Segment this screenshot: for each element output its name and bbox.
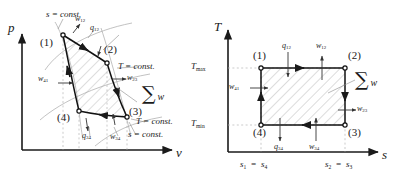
ts-tick-tmin: Tmin [191,119,205,128]
ts-label-w23: w23 [357,105,367,113]
ts-label-q34: q34 [274,143,283,151]
ts-y-axis-label: T [214,20,221,33]
ts-x-axis-label: s [382,148,387,161]
ts-tick-tmax: Tmax [191,62,206,71]
pv-s-const-bottom-label: s = const. [128,130,163,139]
ts-state-label-4: (4) [253,127,266,138]
pv-label-w34: w34 [110,133,120,141]
pv-state-label-2: (2) [104,44,117,55]
ts-label-q12: q12 [282,42,291,50]
pv-label-q12: q12 [90,24,99,32]
ts-sum-work-label: ∑w [355,70,377,89]
figure-canvas: p v (1) (2) (3) (4) s = const. s = const… [0,0,399,180]
pv-arrow-w12 [73,24,80,33]
ts-state-label-3: (3) [348,127,361,138]
ts-state-label-2: (2) [348,50,361,61]
pv-label-w23: w23 [127,74,137,82]
pv-y-axis-label: p [8,21,15,34]
ts-work-area [261,68,345,125]
ts-label-w34: w34 [309,143,319,151]
pv-label-w12: w12 [75,15,85,23]
pv-arrow-q12 [98,46,101,56]
pv-arrow-q34 [86,118,88,131]
pv-label-w41: w41 [38,75,48,83]
ts-tick-s2-s3: s2 = s3 [325,160,352,169]
pv-diagram-graphics [0,0,199,180]
pv-work-area-fill [63,35,127,117]
pv-x-axis-label: v [176,146,182,159]
ts-label-w41: w41 [229,83,239,91]
ts-label-w12: w12 [316,42,326,50]
ts-tick-s1-s4: s1 = s4 [240,160,267,169]
pv-T-const-upper-label: T = const. [118,62,155,71]
ts-state-label-1: (1) [253,50,266,61]
pv-label-q34: q34 [82,132,91,140]
pv-T-const-lower-label: T = const. [136,117,173,126]
pv-sum-work-label: ∑w [142,84,164,103]
pv-state-label-4: (4) [57,112,70,123]
pv-state-label-1: (1) [40,37,53,48]
